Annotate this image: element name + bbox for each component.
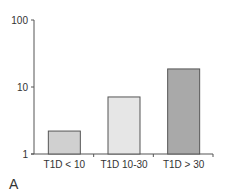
bar	[108, 97, 140, 154]
panel-label: A	[9, 176, 18, 192]
y-tick-label: 1	[22, 149, 28, 160]
bar	[48, 131, 80, 154]
bars	[48, 69, 199, 154]
x-tick-label: T1D 10-30	[100, 159, 148, 170]
bar-chart: 110100T1D < 10T1D 10-30T1D > 30	[0, 0, 231, 194]
bar	[168, 69, 200, 154]
x-tick-label: T1D < 10	[44, 159, 86, 170]
x-tick-label: T1D > 30	[163, 159, 205, 170]
y-tick-label: 100	[11, 15, 28, 26]
y-tick-label: 10	[17, 82, 29, 93]
